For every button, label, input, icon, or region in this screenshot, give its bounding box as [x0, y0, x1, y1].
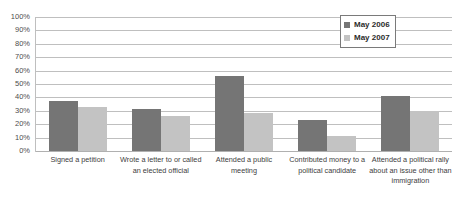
- bar: [298, 120, 327, 151]
- x-axis-label: Contributed money to a political candida…: [286, 155, 369, 176]
- y-axis-tick-label: 0%: [19, 147, 30, 155]
- bar: [49, 101, 78, 151]
- y-axis: 100%90%80%70%60%50%40%30%20%10%0%: [0, 17, 33, 151]
- bar: [78, 107, 107, 151]
- bar: [215, 76, 244, 151]
- y-axis-tick-label: 10%: [15, 134, 30, 142]
- bar: [381, 96, 410, 151]
- gridline: [36, 151, 452, 152]
- y-axis-tick-label: 30%: [15, 107, 30, 115]
- bar-group: [36, 17, 119, 151]
- y-axis-tick-label: 40%: [15, 94, 30, 102]
- legend-swatch-icon: [344, 22, 350, 28]
- x-axis-label: Signed a petition: [36, 155, 119, 166]
- x-axis-label: Attended a public meeting: [202, 155, 285, 176]
- y-axis-tick-label: 20%: [15, 120, 30, 128]
- x-axis-label: Wrote a letter to or called an elected o…: [119, 155, 202, 176]
- legend-label: May 2006: [354, 21, 390, 29]
- bar-chart: 100%90%80%70%60%50%40%30%20%10%0% Signed…: [0, 0, 456, 210]
- legend-label: May 2007: [354, 34, 390, 42]
- y-axis-tick-label: 50%: [15, 80, 30, 88]
- bar: [410, 111, 439, 151]
- y-axis-tick-label: 90%: [15, 27, 30, 35]
- y-axis-tick-label: 80%: [15, 40, 30, 48]
- bar: [244, 113, 273, 151]
- bar: [327, 136, 356, 151]
- bar-group: [119, 17, 202, 151]
- bar: [132, 109, 161, 151]
- y-axis-tick-label: 100%: [11, 13, 30, 21]
- legend-swatch-icon: [344, 35, 350, 41]
- bar-group: [202, 17, 285, 151]
- x-axis-category-labels: Signed a petitionWrote a letter to or ca…: [36, 155, 452, 210]
- legend-item: May 2007: [344, 31, 390, 44]
- x-axis-label: Attended a political rally about an issu…: [369, 155, 452, 187]
- y-axis-tick-label: 70%: [15, 53, 30, 61]
- bar: [161, 116, 190, 151]
- chart-legend: May 2006May 2007: [340, 15, 396, 48]
- cropped-title-remnant: [10, 0, 250, 2]
- y-axis-tick-label: 60%: [15, 67, 30, 75]
- legend-item: May 2006: [344, 18, 390, 31]
